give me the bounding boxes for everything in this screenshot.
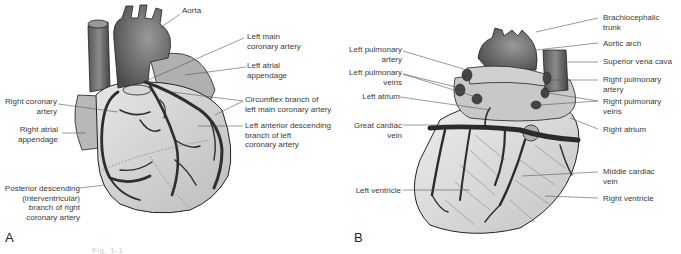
label-aortic-arch: Aortic arch xyxy=(603,39,641,49)
figure-caption: Fig. 1-1 xyxy=(92,247,124,254)
label-right-pulmonary-veins: Right pulmonary veins xyxy=(603,97,661,116)
label-posterior-descending: Posterior descending (interventricular) … xyxy=(0,184,80,222)
label-left-atrial-appendage: Left atrial appendage xyxy=(247,61,287,80)
label-right-atrium: Right atrium xyxy=(603,125,646,135)
label-great-cardiac-vein: Great cardiac vein xyxy=(340,121,402,140)
label-left-pulmonary-artery: Left pulmonary artery xyxy=(340,45,402,64)
label-right-coronary-artery: Right coronary artery xyxy=(0,97,57,116)
panel-a-heart xyxy=(75,5,231,213)
label-right-pulmonary-artery: Right pulmonary artery xyxy=(603,75,661,94)
label-aorta: Aorta xyxy=(182,6,201,16)
label-left-ventricle: Left ventricle xyxy=(340,186,401,196)
label-left-main-coronary-artery: Left main coronary artery xyxy=(247,32,301,51)
label-middle-cardiac-vein: Middle cardiac vein xyxy=(603,167,655,186)
panel-letter-b: B xyxy=(354,230,363,245)
label-right-atrial-appendage: Right atrial appendage xyxy=(0,125,58,144)
panel-b-heart xyxy=(414,28,579,233)
label-left-pulmonary-veins: Left pulmonary veins xyxy=(340,68,402,87)
label-brachiocephalic-trunk: Brachiocephalic trunk xyxy=(603,13,659,32)
panel-letter-a: A xyxy=(5,230,14,245)
label-left-atrium: Left atrium xyxy=(340,92,400,102)
label-superior-vena-cava: Superior vena cava xyxy=(603,57,672,67)
label-circumflex-branch: Circumflex branch of left main coronary … xyxy=(245,95,331,114)
label-right-ventricle: Right ventricle xyxy=(603,194,654,204)
label-left-anterior-descending: Left anterior descending branch of left … xyxy=(245,121,331,150)
